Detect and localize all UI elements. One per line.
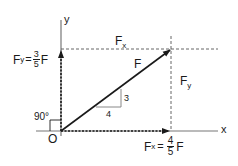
fy-eq-subscript: y xyxy=(20,56,24,64)
origin-label: O xyxy=(48,133,57,145)
fx-top-label: Fx xyxy=(115,35,126,50)
force-diagram xyxy=(0,0,238,166)
fx-equation: Fx = 4 5 F xyxy=(144,136,184,157)
fy-eq-fraction: 3 5 xyxy=(33,50,40,69)
fy-right-label: Fy xyxy=(180,75,191,90)
fy-eq-equals: = xyxy=(25,54,31,65)
resultant-force-vector xyxy=(61,50,170,131)
fy-eq-symbol: F xyxy=(13,54,20,66)
fx-eq-equals: = xyxy=(157,141,163,152)
slope-triangle xyxy=(96,89,121,107)
fx-eq-suffix: F xyxy=(176,141,183,153)
angle-label: 90° xyxy=(34,112,49,122)
fx-top-subscript: x xyxy=(122,41,126,50)
fy-right-subscript: y xyxy=(187,81,191,90)
fx-eq-subscript: x xyxy=(151,143,155,151)
fy-eq-suffix: F xyxy=(41,54,48,66)
slope-rise-label: 3 xyxy=(124,94,129,103)
right-angle-marker xyxy=(50,120,61,131)
slope-run-label: 4 xyxy=(106,110,111,119)
fx-eq-denominator: 5 xyxy=(167,147,175,157)
fx-eq-fraction: 4 5 xyxy=(167,136,175,157)
y-axis-label: y xyxy=(64,14,70,25)
fx-eq-symbol: F xyxy=(144,141,151,153)
x-axis-label: x xyxy=(221,124,227,135)
fy-eq-denominator: 5 xyxy=(33,60,40,69)
vector-label: F xyxy=(134,58,141,70)
fy-equation: Fy = 3 5 F xyxy=(13,50,48,69)
